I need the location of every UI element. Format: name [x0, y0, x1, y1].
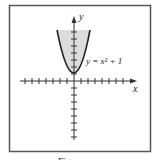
figure-diagram: y x y = x² + 1 Figure	[0, 0, 155, 160]
y-axis-label: y	[78, 11, 84, 22]
figure-caption: Figure	[58, 156, 85, 160]
x-axis	[20, 78, 135, 84]
equation-label: y = x² + 1	[85, 56, 122, 66]
figure-frame	[10, 6, 151, 152]
x-axis-label: x	[132, 83, 138, 94]
y-axis-arrow-icon	[72, 16, 77, 23]
